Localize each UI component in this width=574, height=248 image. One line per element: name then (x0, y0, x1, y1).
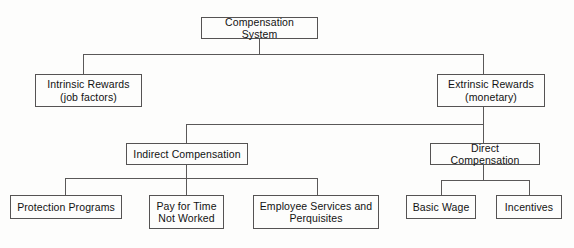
node-incentives-label: Incentives (501, 201, 557, 214)
connector-drop-protection (65, 178, 66, 195)
connector-drop-basicwage (441, 180, 442, 195)
node-indirect-compensation-label: Indirect Compensation (131, 148, 243, 161)
connector-drop-services (317, 178, 318, 195)
node-compensation-system[interactable]: Compensation System (201, 17, 318, 39)
node-incentives[interactable]: Incentives (496, 195, 562, 219)
node-protection-programs[interactable]: Protection Programs (10, 195, 122, 219)
node-employee-services-perquisites-label: Employee Services and Perquisites (258, 200, 374, 225)
connector-root-stem (259, 38, 260, 55)
node-direct-compensation-label: Direct Compensation (435, 142, 535, 167)
node-direct-compensation[interactable]: Direct Compensation (430, 143, 540, 165)
connector-drop-extrinsic (483, 54, 484, 75)
node-indirect-compensation[interactable]: Indirect Compensation (126, 143, 248, 165)
connector-extrinsic-stem (483, 106, 484, 125)
node-compensation-system-label: Compensation System (206, 16, 313, 41)
node-extrinsic-rewards[interactable]: Extrinsic Rewards (monetary) (437, 74, 545, 107)
connector-drop-indirect (186, 124, 187, 144)
node-protection-programs-label: Protection Programs (15, 201, 117, 214)
node-intrinsic-rewards[interactable]: Intrinsic Rewards (job factors) (35, 74, 142, 107)
connector-drop-incentives (529, 180, 530, 195)
connector-bus-direct-children (441, 180, 530, 181)
connector-bus-level1 (83, 54, 484, 55)
node-employee-services-perquisites[interactable]: Employee Services and Perquisites (253, 195, 379, 229)
node-basic-wage[interactable]: Basic Wage (406, 195, 476, 219)
connector-bus-indirect-children (65, 178, 318, 179)
node-pay-for-time-not-worked-label: Pay for Time Not Worked (154, 200, 219, 225)
connector-drop-intrinsic (83, 54, 84, 75)
node-basic-wage-label: Basic Wage (411, 201, 471, 214)
node-extrinsic-rewards-label: Extrinsic Rewards (monetary) (442, 78, 540, 103)
connector-bus-level2 (186, 124, 484, 125)
connector-drop-paytime (186, 178, 187, 195)
node-intrinsic-rewards-label: Intrinsic Rewards (job factors) (40, 78, 137, 103)
compensation-system-diagram: Compensation System Intrinsic Rewards (j… (0, 0, 574, 248)
node-pay-for-time-not-worked[interactable]: Pay for Time Not Worked (149, 195, 224, 229)
connector-direct-stem (483, 164, 484, 181)
connector-indirect-stem (186, 164, 187, 179)
